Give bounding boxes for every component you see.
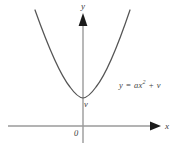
origin-label: 0 [74, 129, 78, 138]
vertex-label: v [84, 100, 88, 109]
x-axis-arrowhead-icon [150, 122, 161, 131]
equation-label: y = ax2 + v [119, 79, 161, 89]
parabola-figure: y x 0 v y = ax2 + v [0, 0, 176, 154]
x-axis-label: x [165, 122, 169, 131]
equation-rhs: + v [146, 80, 161, 90]
y-axis-label: y [81, 2, 85, 11]
plot-canvas [0, 0, 176, 154]
equation-lhs: y = ax [119, 80, 143, 90]
y-axis-arrowhead-icon [79, 13, 88, 26]
axes-group [8, 13, 161, 143]
